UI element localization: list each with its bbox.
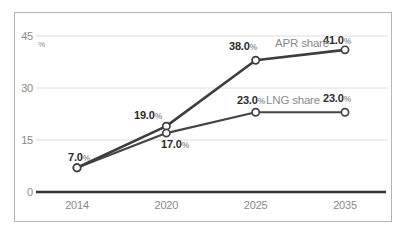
marker-lng-share-2014 (73, 164, 80, 171)
y-tick-label-30: 30 (21, 82, 33, 94)
data-label-lng-share-2035: 23.0% (323, 92, 352, 104)
y-tick-label-45: 45 (21, 30, 33, 42)
y-tick-label-15: 15 (21, 134, 33, 146)
marker-apr-share-2025 (252, 57, 259, 64)
marker-lng-share-2020 (163, 129, 170, 136)
y-axis-unit-label: % (38, 40, 45, 49)
marker-lng-share-2035 (341, 109, 348, 116)
data-label-apr-share-2025: 38.0% (229, 40, 258, 52)
marker-lng-share-2025 (252, 109, 259, 116)
x-tick-label-2035: 2035 (333, 199, 357, 211)
data-label-lng-share-2025: 23.0% (237, 94, 266, 106)
x-tick-label-2025: 2025 (244, 199, 268, 211)
data-label-apr-share-2020: 19.0% (134, 109, 163, 121)
series-label-apr-share: APR share (275, 37, 329, 49)
x-tick-label-2014: 2014 (65, 199, 89, 211)
x-tick-label-2020: 2020 (154, 199, 178, 211)
chart-container: 0153045%20142020202520357.0%19.0%38.0%41… (0, 0, 399, 229)
marker-apr-share-2035 (341, 46, 348, 53)
data-label-apr-share-2014: 7.0% (68, 151, 91, 163)
data-label-lng-share-2020: 17.0% (161, 138, 190, 150)
y-tick-label-0: 0 (27, 186, 33, 198)
chart-canvas: 0153045%20142020202520357.0%19.0%38.0%41… (0, 0, 399, 229)
series-label-lng-share: LNG share (266, 94, 320, 106)
